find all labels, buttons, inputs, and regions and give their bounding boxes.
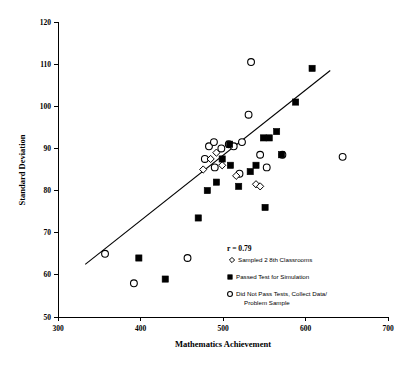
data-point (227, 141, 233, 147)
data-point (136, 255, 142, 261)
data-point (131, 280, 138, 287)
data-point (162, 276, 168, 282)
data-point (239, 139, 246, 146)
y-tick-label: 120 (40, 18, 52, 27)
y-tick-label: 50 (44, 313, 52, 322)
data-point (262, 204, 268, 210)
x-tick-label: 300 (52, 324, 64, 333)
data-point (293, 99, 299, 105)
chart-canvas: 5060708090100110120 300400500600700 Stan… (0, 0, 412, 365)
data-point (211, 164, 218, 171)
x-tick-label: 500 (217, 324, 229, 333)
legend-item-label: Did Not Pass Tests, Collect Data/ (236, 290, 327, 297)
y-tick-label: 60 (44, 270, 52, 279)
data-point (278, 152, 284, 158)
data-point (263, 164, 270, 171)
data-point (102, 250, 109, 257)
x-tick-label: 600 (300, 324, 312, 333)
data-point (204, 187, 210, 193)
y-axis-title: Standard Deviation (17, 134, 27, 205)
legend-marker-open-circle (228, 292, 233, 297)
data-point (247, 169, 253, 175)
scatter-plot-figure: 5060708090100110120 300400500600700 Stan… (0, 0, 412, 365)
legend-item-label: Passed Test for Simulation (236, 273, 310, 280)
y-tick-label: 80 (44, 186, 52, 195)
x-tick-label: 700 (382, 324, 394, 333)
data-point (260, 135, 266, 141)
data-point (213, 179, 219, 185)
data-point (266, 135, 272, 141)
data-point (195, 215, 201, 221)
data-point (339, 153, 346, 160)
data-point (236, 183, 242, 189)
y-tick-label: 110 (40, 60, 51, 69)
figure-background (0, 0, 412, 365)
x-tick-label: 400 (135, 324, 147, 333)
x-axis-title: Mathematics Achievement (175, 339, 271, 349)
data-point (274, 128, 280, 134)
y-tick-label: 90 (44, 144, 52, 153)
data-point (211, 139, 218, 146)
y-tick-label: 100 (40, 102, 52, 111)
data-point (218, 145, 225, 152)
data-point (257, 151, 264, 158)
y-tick-label: 70 (44, 228, 52, 237)
correlation-annotation: r = 0.79 (227, 244, 252, 253)
legend-item-label-line2: Problem Sample (244, 299, 290, 306)
data-point (227, 162, 233, 168)
legend-marker-filled-square (228, 275, 232, 279)
data-point (184, 255, 191, 262)
data-point (253, 162, 259, 168)
data-point (248, 59, 255, 66)
data-point (309, 65, 315, 71)
legend-item-label: Sampled 2 8th Classrooms (238, 256, 312, 263)
data-point (245, 111, 252, 118)
data-point (219, 156, 225, 162)
